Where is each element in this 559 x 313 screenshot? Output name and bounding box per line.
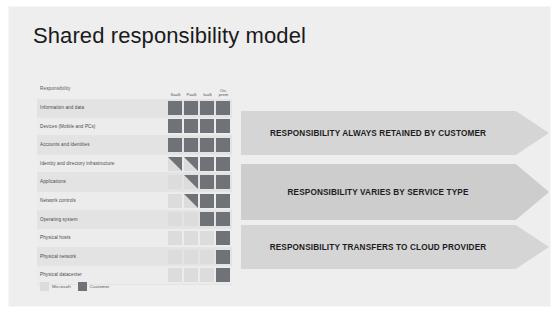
- banner-transfers-to-provider: RESPONSIBILITY TRANSFERS TO CLOUD PROVID…: [241, 225, 549, 269]
- matrix-cell-iaas-microsoft: [200, 250, 214, 264]
- banner-text: RESPONSIBILITY ALWAYS RETAINED BY CUSTOM…: [241, 129, 515, 138]
- row-label: Physical datacenter: [40, 272, 82, 277]
- matrix-cell-paas-split: [184, 194, 198, 208]
- table-row: Accounts and identities: [37, 136, 232, 155]
- legend-swatch-microsoft: [40, 282, 49, 291]
- row-label: Network controls: [40, 198, 76, 203]
- responsibility-matrix: Responsibility SaaS PaaS IaaS On-prem In…: [37, 83, 232, 285]
- matrix-cell-paas-customer: [184, 101, 198, 115]
- legend-label-microsoft: Microsoft: [52, 284, 71, 289]
- matrix-cell-onprem-customer: [216, 194, 230, 208]
- table-row: Information and data: [37, 99, 232, 118]
- banner-customer-retained: RESPONSIBILITY ALWAYS RETAINED BY CUSTOM…: [241, 111, 549, 155]
- row-label: Devices (Mobile and PCs): [40, 124, 96, 129]
- row-label: Accounts and identities: [40, 142, 90, 147]
- matrix-cell-onprem-customer: [216, 119, 230, 133]
- matrix-cell-iaas-customer: [200, 194, 214, 208]
- matrix-cell-paas-split: [184, 157, 198, 171]
- matrix-cell-iaas-customer: [200, 157, 214, 171]
- matrix-header-row: Responsibility SaaS PaaS IaaS On-prem: [37, 83, 232, 99]
- row-label: Identity and directory infrastructure: [40, 161, 114, 166]
- legend-label-customer: Customer: [90, 284, 110, 289]
- matrix-cell-iaas-customer: [200, 138, 214, 152]
- matrix-cell-saas-customer: [168, 101, 182, 115]
- table-row: Physical network: [37, 248, 232, 267]
- legend-swatch-customer: [78, 282, 87, 291]
- row-label: Physical hosts: [40, 235, 71, 240]
- matrix-cell-paas-microsoft: [184, 231, 198, 245]
- page-title: Shared responsibility model: [33, 23, 306, 49]
- table-row: Applications: [37, 173, 232, 192]
- matrix-cell-saas-microsoft: [168, 175, 182, 189]
- matrix-cell-iaas-customer: [200, 175, 214, 189]
- banner-text: RESPONSIBILITY TRANSFERS TO CLOUD PROVID…: [241, 243, 515, 252]
- table-row: Network controls: [37, 192, 232, 211]
- banner-varies-by-service: RESPONSIBILITY VARIES BY SERVICE TYPE: [241, 164, 549, 220]
- table-row: Devices (Mobile and PCs): [37, 118, 232, 137]
- table-row: Operating system: [37, 211, 232, 230]
- row-label: Applications: [40, 179, 66, 184]
- matrix-cell-iaas-customer: [200, 119, 214, 133]
- banner-text: RESPONSIBILITY VARIES BY SERVICE TYPE: [241, 188, 515, 197]
- column-header-iaas: IaaS: [200, 93, 215, 98]
- matrix-cell-saas-microsoft: [168, 250, 182, 264]
- matrix-cell-onprem-customer: [216, 231, 230, 245]
- matrix-cell-saas-split: [168, 157, 182, 171]
- matrix-cell-saas-microsoft: [168, 231, 182, 245]
- matrix-cell-onprem-customer: [216, 138, 230, 152]
- matrix-cell-paas-microsoft: [184, 212, 198, 226]
- matrix-cell-saas-microsoft: [168, 268, 182, 282]
- matrix-cell-onprem-customer: [216, 212, 230, 226]
- matrix-cell-paas-microsoft: [184, 250, 198, 264]
- slide-canvas: Shared responsibility model Responsibili…: [9, 7, 550, 306]
- matrix-cell-onprem-customer: [216, 175, 230, 189]
- matrix-cell-saas-customer: [168, 119, 182, 133]
- matrix-cell-onprem-customer: [216, 268, 230, 282]
- matrix-cell-paas-split: [184, 175, 198, 189]
- legend-item-microsoft: Microsoft: [40, 282, 71, 291]
- matrix-cell-onprem-customer: [216, 250, 230, 264]
- matrix-cell-saas-microsoft: [168, 212, 182, 226]
- responsibility-column-header: Responsibility: [40, 86, 70, 91]
- matrix-cell-paas-microsoft: [184, 268, 198, 282]
- matrix-cell-saas-microsoft: [168, 194, 182, 208]
- matrix-cell-saas-customer: [168, 138, 182, 152]
- legend: Microsoft Customer: [40, 282, 110, 291]
- table-row: Identity and directory infrastructure: [37, 155, 232, 174]
- matrix-cell-onprem-customer: [216, 157, 230, 171]
- matrix-cell-iaas-microsoft: [200, 231, 214, 245]
- column-header-saas: SaaS: [168, 93, 183, 98]
- legend-item-customer: Customer: [78, 282, 110, 291]
- row-label: Information and data: [40, 105, 84, 110]
- matrix-cell-onprem-customer: [216, 101, 230, 115]
- row-label: Operating system: [40, 217, 78, 222]
- matrix-cell-paas-customer: [184, 138, 198, 152]
- matrix-cell-iaas-customer: [200, 212, 214, 226]
- matrix-cell-iaas-customer: [200, 101, 214, 115]
- matrix-cell-paas-customer: [184, 119, 198, 133]
- column-header-onprem: On-prem: [216, 89, 231, 98]
- row-label: Physical network: [40, 254, 76, 259]
- table-row: Physical hosts: [37, 229, 232, 248]
- column-header-paas: PaaS: [184, 93, 199, 98]
- matrix-cell-iaas-microsoft: [200, 268, 214, 282]
